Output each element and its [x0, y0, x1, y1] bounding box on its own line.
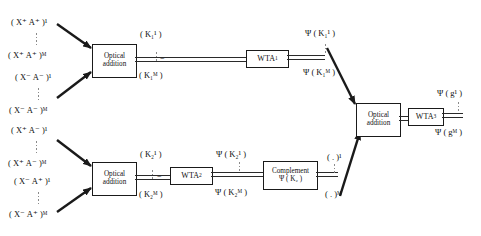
optical-addition-2-line2: addition: [103, 179, 127, 187]
wta-1-sub: 1: [275, 56, 278, 62]
bus-label-comp-bottom: ( . )ᴹ: [325, 190, 342, 199]
bus-psi-k2: [211, 172, 263, 177]
bus-label-psi-k2-bottom: Ψ ( K₂ᴹ ): [215, 188, 247, 197]
input-label-x-plus-a-minus-m: ( X⁺ A⁻ )ᴹ: [8, 159, 46, 168]
wta-1-label: WTA: [257, 55, 275, 63]
bus-label-k2-bottom: ( K₂ᴹ ): [139, 190, 163, 199]
ellipsis-output: [458, 102, 460, 113]
ellipsis-input-top-2: [38, 88, 40, 102]
ellipsis-input-top-1: [36, 33, 38, 47]
arrow-in-6: [340, 132, 360, 196]
optical-addition-block-3[interactable]: Optical addition: [356, 103, 401, 137]
bus-oa3-wta3: [399, 116, 408, 121]
input-label-x-minus-a-plus-1: ( X⁻ A⁺ )¹: [14, 177, 50, 186]
bus-label-k1-bottom: ( K₁ᴹ ): [139, 71, 163, 80]
ellipsis-bus-k1: [156, 52, 158, 63]
bus-k1: [135, 57, 246, 62]
wta-block-2[interactable]: WTA2: [170, 167, 213, 185]
wta-2-sub: 2: [199, 173, 202, 179]
bus-k1-equals: =: [160, 54, 165, 63]
optical-addition-block-1[interactable]: Optical addition: [92, 44, 137, 78]
wta-3-sub: 3: [433, 114, 436, 120]
input-label-x-minus-a-minus-1: ( X⁻ A⁻ )¹: [15, 73, 51, 82]
bus-label-psi-k1-top: Ψ ( K₁¹ ): [305, 29, 335, 38]
wta-3-label: WTA: [416, 113, 434, 121]
complement-block[interactable]: Complement Ψ ( K₂ ): [263, 161, 318, 190]
bus-label-comp-top: ( . )¹: [327, 153, 342, 162]
optical-addition-3-line2: addition: [367, 120, 391, 128]
complement-line2: Ψ ( K₂ ): [279, 176, 302, 184]
bus-label-psi-k2-top: Ψ ( K₂¹ ): [216, 150, 246, 159]
arrow-in-2: [57, 72, 91, 98]
output-label-psi-g-bottom: Ψ ( gᴹ ): [435, 128, 462, 137]
output-label-psi-g-top: Ψ ( g¹ ): [437, 89, 462, 98]
input-label-x-minus-a-minus-m: ( X⁻ A⁻ )ᴹ: [9, 106, 47, 115]
bus-label-psi-k1-bottom: Ψ ( K₁ᴹ ): [303, 68, 335, 77]
input-label-x-plus-a-minus-1: ( X⁺ A⁻ )¹: [11, 126, 47, 135]
wta-2-label: WTA: [181, 172, 199, 180]
bus-k2-equals: =: [157, 172, 162, 181]
wta-block-3[interactable]: WTA3: [408, 108, 444, 126]
ellipsis-psi-k2: [239, 162, 241, 173]
arrow-in-4: [57, 188, 91, 212]
bus-label-k2-top: ( K₂¹ ): [140, 150, 162, 159]
ellipsis-bus-k2: [152, 170, 154, 181]
input-label-x-plus-a-plus-1: ( X⁺ A⁺ )¹: [11, 18, 47, 27]
bus-output: [442, 113, 463, 118]
bus-label-k1-top: ( K₁¹ ): [140, 30, 162, 39]
input-label-x-plus-a-plus-m: ( X⁺ A⁺ )ᴹ: [8, 51, 46, 60]
ellipsis-psi-k1: [325, 44, 327, 55]
ellipsis-input-bot-2: [38, 192, 40, 206]
ellipsis-comp: [334, 164, 336, 175]
optical-addition-block-2[interactable]: Optical addition: [92, 162, 137, 196]
diagram-canvas: ( X⁺ A⁺ )¹ ( X⁺ A⁺ )ᴹ ( X⁻ A⁻ )¹ ( X⁻ A⁻…: [0, 0, 481, 236]
bus-psi-k1: [287, 55, 325, 60]
arrow-in-3: [57, 140, 91, 166]
ellipsis-input-bot-1: [36, 141, 38, 155]
wta-block-1[interactable]: WTA1: [246, 50, 289, 68]
arrow-in-1: [57, 24, 91, 48]
optical-addition-1-line2: addition: [103, 61, 127, 69]
input-label-x-minus-a-plus-m: ( X⁻ A⁺ )ᴹ: [9, 210, 47, 219]
